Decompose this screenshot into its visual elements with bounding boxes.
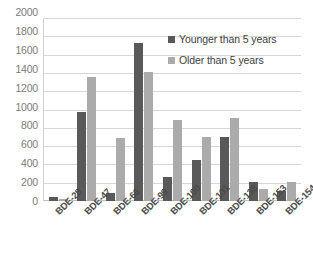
y-axis-tick-label: 600 <box>21 138 38 150</box>
y-axis: 2000180016001400120010008006004002000 <box>0 12 41 201</box>
y-axis-tick-label: 0 <box>32 195 38 207</box>
y-axis-tick-label: 800 <box>21 119 38 131</box>
y-axis-tick-label: 1200 <box>15 82 38 94</box>
x-axis-slot: BDE-154 <box>272 201 301 255</box>
bar[interactable] <box>230 118 239 201</box>
legend-swatch-icon <box>168 57 175 64</box>
x-axis-slot: BDE-66 <box>100 201 129 255</box>
bar-group <box>101 18 130 201</box>
y-axis-tick-label: 400 <box>21 157 38 169</box>
y-axis-tick-label: 200 <box>21 176 38 188</box>
y-axis-tick-label: 1600 <box>15 44 38 56</box>
legend-label: Older than 5 years <box>179 54 264 66</box>
x-axis-slot: BDE-99 <box>129 201 158 255</box>
bar[interactable] <box>116 138 125 201</box>
bar-group <box>44 18 73 201</box>
x-axis-slot: BDE-138 <box>215 201 244 255</box>
bar[interactable] <box>144 72 153 201</box>
legend-swatch-icon <box>168 36 175 43</box>
chart-legend: Younger than 5 years Older than 5 years <box>168 33 276 66</box>
x-axis-slot: BDE-100 <box>158 201 187 255</box>
legend-label: Younger than 5 years <box>179 33 276 45</box>
bar[interactable] <box>134 43 143 201</box>
bar-chart: 2000180016001400120010008006004002000 BD… <box>0 0 313 255</box>
bar[interactable] <box>87 77 96 201</box>
bar-group <box>130 18 159 201</box>
y-axis-tick-label: 1800 <box>15 25 38 37</box>
x-axis-slot: BDE-153 <box>244 201 273 255</box>
x-axis: BDE-28BDE-47BDE-66BDE-99BDE-100BDE-101BD… <box>43 201 301 255</box>
legend-item-older[interactable]: Older than 5 years <box>168 54 276 66</box>
y-axis-tick-label: 2000 <box>15 6 38 18</box>
bar-group <box>73 18 102 201</box>
bar[interactable] <box>173 120 182 201</box>
x-axis-slot: BDE-101 <box>186 201 215 255</box>
y-axis-tick-label: 1000 <box>15 101 38 113</box>
legend-item-younger[interactable]: Younger than 5 years <box>168 33 276 45</box>
x-axis-slot: BDE-28 <box>43 201 72 255</box>
y-axis-tick-label: 1400 <box>15 63 38 75</box>
x-axis-slot: BDE-47 <box>72 201 101 255</box>
bar-group <box>273 18 302 201</box>
bar[interactable] <box>202 137 211 202</box>
